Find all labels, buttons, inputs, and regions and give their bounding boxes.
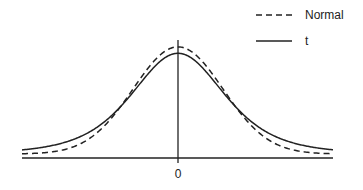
chart: 0 Normal t bbox=[0, 0, 363, 190]
legend-t-label: t bbox=[305, 34, 309, 48]
legend: Normal t bbox=[256, 8, 344, 48]
x-tick-zero: 0 bbox=[175, 167, 182, 181]
legend-normal-label: Normal bbox=[305, 8, 344, 22]
